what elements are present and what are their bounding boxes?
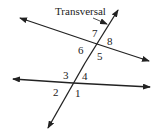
transversal-pointer-arrow [93, 18, 107, 24]
angle-5: 5 [97, 50, 103, 62]
lower-line [73, 83, 150, 87]
angle-4: 4 [82, 70, 88, 82]
upper-line [97, 44, 149, 61]
transversal-diagram: Transversal 7 8 6 5 3 4 2 1 [0, 0, 155, 135]
upper-line-left [20, 18, 97, 44]
angle-2: 2 [53, 86, 59, 98]
angle-8: 8 [107, 35, 113, 47]
angle-6: 6 [78, 44, 84, 56]
angle-3: 3 [63, 69, 69, 81]
transversal-label: Transversal [55, 5, 106, 17]
angle-1: 1 [75, 87, 81, 99]
angle-7: 7 [92, 27, 98, 39]
